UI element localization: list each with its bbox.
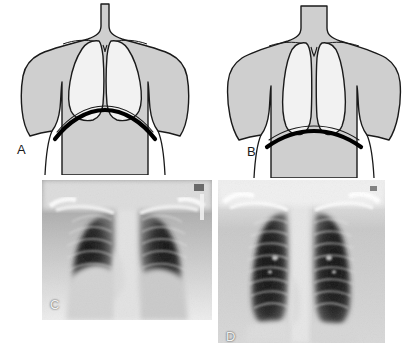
panel-label-c: C bbox=[50, 298, 60, 311]
panel-label-d: D bbox=[226, 330, 236, 343]
panel-a-svg bbox=[0, 0, 210, 175]
panel-a-body-silhouette bbox=[21, 4, 188, 175]
figure-root: A bbox=[0, 0, 419, 363]
panel-a-normal-chest-diagram: A bbox=[0, 0, 210, 175]
panel-d-hyperinflated-radiograph: D bbox=[218, 180, 385, 343]
panel-label-b: B bbox=[247, 145, 256, 158]
panel-b-svg bbox=[209, 0, 419, 178]
panel-c-normal-radiograph: C bbox=[42, 180, 212, 320]
panel-c-svg bbox=[42, 180, 212, 320]
panel-label-a: A bbox=[17, 143, 26, 156]
panel-d-svg bbox=[218, 180, 385, 343]
panel-b-hyperinflated-chest-diagram: B bbox=[209, 0, 419, 178]
